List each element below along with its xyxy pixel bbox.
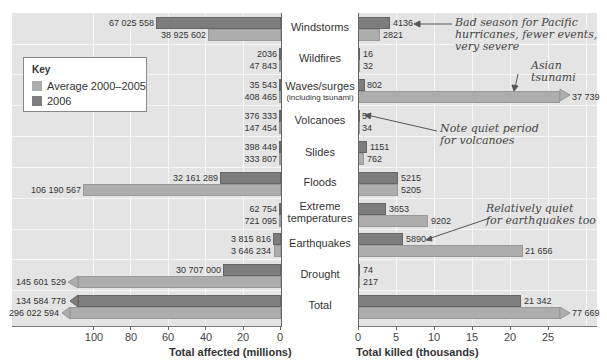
note-hurricanes: Bad season for Pacifichurricanes, fewer …	[455, 17, 597, 53]
note-tsunami: Asiantsunami	[531, 60, 576, 84]
note-earthquakes: Relatively quietfor earthquakes too	[486, 203, 596, 227]
annotation-arrows	[0, 0, 607, 364]
note-volcanoes: Note quiet periodfor volcanoes	[440, 123, 539, 147]
